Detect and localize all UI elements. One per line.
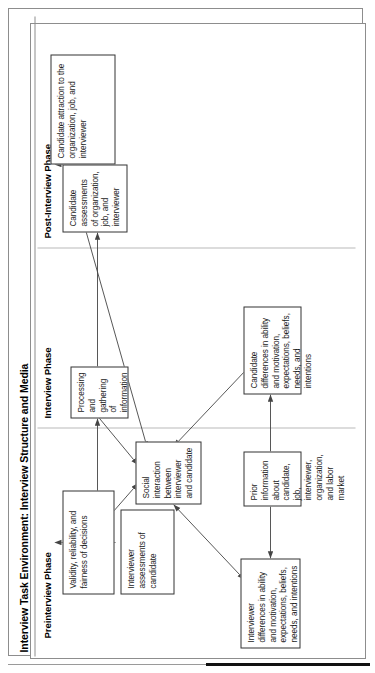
phase-divider-2	[37, 248, 355, 249]
node-processing-gathering: Processing and gathering of information	[70, 367, 128, 419]
node-interviewer-differences: Interviewer differences in ability and m…	[240, 559, 300, 649]
edge-candidate-to-social	[173, 371, 245, 447]
title-divider	[34, 17, 35, 657]
node-candidate-assessments: Candidate assessments of organization, j…	[62, 165, 127, 233]
footer-rule-thin	[8, 664, 208, 665]
phase-label-interview: Interview Phase	[41, 347, 52, 418]
phase-divider-1	[37, 428, 355, 429]
figure-title: Interview Task Environment: Interview St…	[17, 364, 29, 653]
footer-rule-thick	[206, 663, 370, 666]
footer-rule	[8, 663, 368, 667]
node-validity-reliability: Validity, reliability, and fairness of d…	[62, 491, 114, 595]
phase-label-preinterview: Preinterview Phase	[41, 552, 52, 638]
node-interviewer-assessments: Interviewer assessments of candidate	[120, 510, 174, 595]
node-candidate-differences: Candidate differences in ability and mot…	[243, 307, 301, 395]
node-social-interaction: Social interaction between interviewer a…	[135, 442, 201, 505]
node-candidate-attraction: Candidate attraction to the organization…	[50, 55, 115, 165]
node-prior-information: Prior information about candidate, job, …	[243, 452, 301, 507]
diagram-stage: Interview Task Environment: Interview St…	[15, 17, 360, 657]
edge-interviewer-to-social	[173, 505, 239, 575]
figure-page: Interview Task Environment: Interview St…	[0, 0, 375, 673]
